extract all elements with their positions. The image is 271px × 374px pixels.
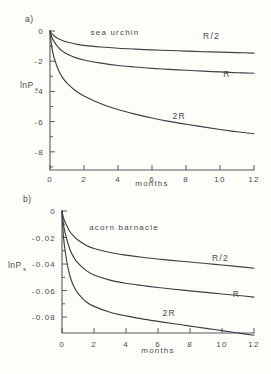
curve-label-2R: 2R (163, 308, 176, 318)
y-tick-label: -2 (34, 57, 44, 66)
x-tick-label: 0 (59, 340, 65, 349)
y-tick-label: -0.06 (32, 287, 56, 296)
panel-b-plot: b) 0-0.02-0.04-0.06-0.08 024681012 R/2R2… (0, 185, 271, 374)
panel-a-species-label: sea urchin (91, 28, 140, 37)
x-tick-label: 8 (187, 340, 193, 349)
panel-a-curves (50, 31, 254, 134)
panel-a-sea-urchin: a) 0-2-4-6-8 024681012 R/2R2R lnP s mont… (0, 0, 271, 190)
panel-a-x-ticks (50, 165, 254, 170)
curve-label-2R: 2R (173, 111, 186, 121)
x-tick-label: 2 (81, 175, 87, 184)
panel-b-species-label: acorn barnacle (89, 223, 159, 232)
figure-container: a) 0-2-4-6-8 024681012 R/2R2R lnP s mont… (0, 0, 271, 374)
panel-b-xlabel: months (141, 346, 174, 355)
panel-a-plot: a) 0-2-4-6-8 024681012 R/2R2R lnP s mont… (0, 0, 271, 190)
curve-R-2 (50, 31, 254, 53)
y-tick-label: -0.04 (32, 260, 56, 269)
curve-label-R: R (223, 69, 230, 79)
y-tick-label: -0.08 (32, 313, 56, 322)
curve-2R (50, 31, 254, 134)
panel-a-label-group: a) (25, 14, 34, 24)
x-tick-label: 8 (183, 175, 189, 184)
curve-label-R-2: R/2 (212, 253, 229, 263)
x-tick-label: 4 (115, 175, 121, 184)
panel-a-curve-labels: R/2R2R (173, 31, 231, 121)
panel-b-y-tick-labels: 0-0.02-0.04-0.06-0.08 (32, 207, 56, 322)
x-tick-label: 0 (47, 175, 53, 184)
x-tick-label: 10 (216, 340, 227, 349)
curve-label-R-2: R/2 (203, 31, 220, 41)
y-tick-label: -0.02 (32, 234, 56, 243)
panel-a-ylabel-main: lnP (20, 80, 34, 90)
panel-b-y-axis-title: lnP s (8, 260, 26, 272)
panel-b-label: b) (23, 194, 32, 204)
y-tick-label: 0 (50, 207, 56, 216)
panel-b-ylabel-main: lnP (8, 260, 22, 270)
panel-b-x-ticks (62, 328, 254, 333)
x-tick-label: 2 (91, 340, 97, 349)
panel-a-label: a) (25, 14, 34, 24)
x-tick-label: 10 (214, 175, 225, 184)
y-tick-label: -8 (34, 148, 44, 157)
panel-a-y-axis-title: lnP s (20, 80, 38, 92)
curve-label-R: R (233, 289, 240, 299)
panel-b-label-group: b) (23, 194, 32, 204)
panel-b-acorn-barnacle: b) 0-0.02-0.04-0.06-0.08 024681012 R/2R2… (0, 185, 271, 374)
y-tick-label: -6 (34, 118, 44, 127)
y-tick-label: 0 (38, 27, 44, 36)
x-tick-label: 12 (248, 340, 259, 349)
panel-b-ylabel-subscript: s (23, 266, 26, 272)
x-tick-label: 4 (123, 340, 129, 349)
panel-a-ylabel-subscript: s (35, 86, 38, 92)
x-tick-label: 12 (248, 175, 259, 184)
